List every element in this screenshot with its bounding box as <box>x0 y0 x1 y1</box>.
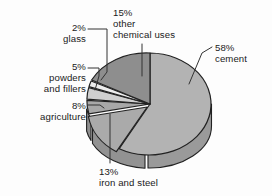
slice-label-agriculture-name: agriculture <box>0 111 86 122</box>
slice-label-iron-and-steel-name: iron and steel <box>99 177 158 188</box>
slice-label-powders-and-fillers-line3: and fillers <box>0 83 86 94</box>
pie-chart-figure: 15% other chemical uses 58% cement 2% gl… <box>0 0 272 196</box>
slice-label-agriculture-pct: 8% <box>0 100 86 111</box>
pie-top-face <box>87 53 211 155</box>
slice-label-other-chemical-uses: 15% other chemical uses <box>113 7 175 41</box>
slice-label-other-chemical-uses-line2: other <box>113 18 175 29</box>
slice-label-other-chemical-uses-line3: chemical uses <box>113 29 175 40</box>
slice-label-cement-pct: 58% <box>215 42 247 53</box>
slice-label-powders-and-fillers: 5% powders and fillers <box>0 61 86 95</box>
slice-label-glass-name: glass <box>0 33 86 44</box>
slice-label-glass: 2% glass <box>0 22 86 44</box>
slice-label-powders-and-fillers-line2: powders <box>0 72 86 83</box>
slice-label-agriculture: 8% agriculture <box>0 100 86 122</box>
slice-label-iron-and-steel: 13% iron and steel <box>99 166 158 188</box>
slice-label-other-chemical-uses-pct: 15% <box>113 7 175 18</box>
slice-label-cement: 58% cement <box>215 42 247 64</box>
slice-label-iron-and-steel-pct: 13% <box>99 166 158 177</box>
slice-label-powders-and-fillers-pct: 5% <box>0 61 86 72</box>
slice-label-glass-pct: 2% <box>0 22 86 33</box>
slice-label-cement-name: cement <box>215 53 247 64</box>
